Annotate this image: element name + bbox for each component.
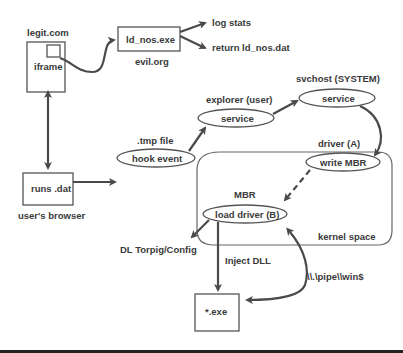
- write-mbr-label: write MBR: [319, 157, 367, 168]
- svchost-service-label: service: [322, 93, 355, 104]
- log-stats-label: log stats: [212, 17, 251, 28]
- arrow-hook-to-explorer: [189, 128, 205, 151]
- arrow-svchost-to-writembr: [360, 106, 381, 155]
- iframe-label: iframe: [34, 61, 63, 72]
- runs-dat-label: runs .dat: [31, 183, 72, 194]
- ld-nos-label: ld_nos.exe: [126, 34, 175, 45]
- driver-a-label: driver (A): [318, 138, 360, 149]
- kernel-space-label: kernel space: [318, 231, 376, 242]
- return-ld-nos-label: return ld_nos.dat: [212, 42, 290, 53]
- pipe-label: \\.\pipe\\win$: [307, 271, 364, 282]
- arrow-loaddriver-to-dl: [192, 220, 209, 237]
- arrow-writembr-to-loaddriver: [285, 170, 310, 200]
- load-driver-label: load driver (B): [215, 209, 279, 220]
- exe-label: *.exe: [205, 306, 227, 317]
- inject-dll-label: Inject DLL: [225, 255, 271, 266]
- evil-org-label: evil.org: [135, 56, 169, 67]
- users-browser-label: user's browser: [18, 210, 86, 221]
- svchost-label: svchost (SYSTEM): [296, 73, 380, 84]
- arrow-iframe-to-ldnos: [60, 40, 114, 72]
- arrow-explorer-to-svchost: [273, 101, 297, 114]
- hook-event-label: hook event: [132, 153, 183, 164]
- arrow-to-log-stats: [180, 23, 205, 32]
- explorer-label: explorer (user): [206, 94, 273, 105]
- iframe-square: [47, 45, 60, 57]
- arrow-to-return: [180, 36, 205, 48]
- tmp-file-label: .tmp file: [137, 135, 173, 146]
- diagram-canvas: kernel space legit.com iframe ld_nos.exe…: [0, 0, 403, 353]
- explorer-service-label: service: [221, 113, 254, 124]
- legit-com-label: legit.com: [27, 27, 69, 38]
- arrow-pipe-exe-kernel: [247, 232, 307, 300]
- dl-torpig-label: DL Torpig/Config: [120, 244, 197, 255]
- mbr-label: MBR: [234, 189, 256, 200]
